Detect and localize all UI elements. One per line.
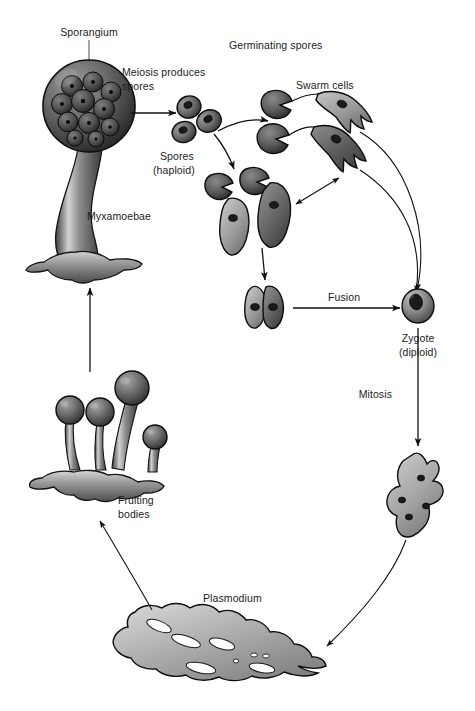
label-mitosis: Mitosis	[359, 388, 392, 400]
label-meiosis-line2: spores	[122, 80, 154, 92]
stage-zygote	[402, 289, 434, 323]
fruiting-head-4	[143, 425, 167, 449]
label-fusion: Fusion	[328, 291, 360, 303]
label-zygote: Zygote	[402, 332, 435, 344]
label-spores-haploid: (haploid)	[153, 164, 195, 176]
label-fruiting-line1: Fruiting	[118, 494, 154, 506]
fruiting-head-2	[86, 398, 114, 426]
label-fruiting-line2: bodies	[118, 508, 150, 520]
fusing-nucleus-right	[269, 304, 278, 311]
label-myxamoebae: Myxamoebae	[87, 210, 151, 222]
label-sporangium: Sporangium	[60, 26, 118, 38]
label-spores: Spores	[160, 150, 194, 162]
label-swarm-cells: Swarm cells	[296, 79, 354, 91]
slime-mold-life-cycle-diagram: Sporangium Meiosis produces spores Germi…	[0, 0, 475, 711]
fusing-nucleus-left	[251, 304, 260, 311]
label-germinating-spores: Germinating spores	[229, 39, 322, 51]
label-plasmodium: Plasmodium	[203, 592, 262, 604]
life-cycle-svg: Sporangium Meiosis produces spores Germi…	[0, 0, 475, 711]
label-meiosis-line1: Meiosis produces	[122, 66, 205, 78]
fruiting-head-3	[115, 371, 149, 405]
stage-fusing-cells	[245, 286, 284, 328]
fruiting-head-1	[56, 396, 84, 424]
label-zygote-diploid: (diploid)	[399, 346, 437, 358]
